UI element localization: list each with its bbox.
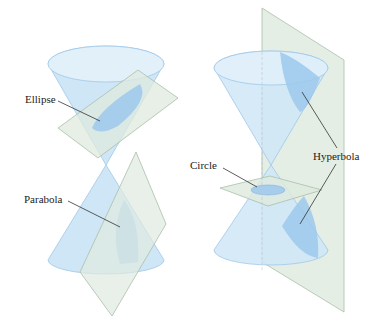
hyperbola-label: Hyperbola — [313, 150, 360, 162]
parabola-label: Parabola — [24, 193, 63, 205]
conic-sections-diagram: Ellipse Parabola Hyperbola Circle — [0, 0, 384, 330]
circle-label: Circle — [190, 159, 217, 171]
left-double-cone — [48, 46, 178, 316]
ellipse-label: Ellipse — [25, 93, 56, 105]
